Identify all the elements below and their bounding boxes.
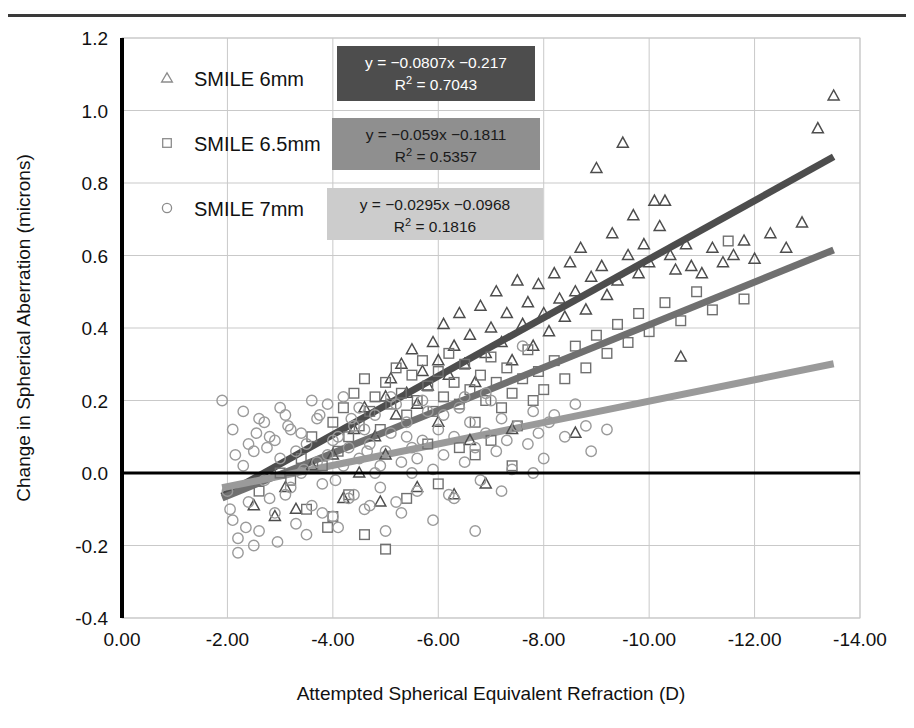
y-tick-label: 1.0 — [82, 101, 108, 122]
equation-boxes: y = −0.0807x −0.217R2 = 0.7043y = −0.059… — [327, 46, 543, 240]
y-tick-label: -0.4 — [75, 608, 108, 629]
top-divider-rule — [8, 14, 906, 17]
y-tick-label: -0.2 — [75, 536, 108, 557]
equation-box-3: y = −0.0295x −0.0968R2 = 0.1816 — [327, 188, 543, 240]
equation-box-2: y = −0.059x −0.1811R2 = 0.5357 — [332, 118, 540, 170]
y-tick-label: 0.2 — [82, 391, 108, 412]
equation-box-1: y = −0.0807x −0.217R2 = 0.7043 — [337, 46, 535, 101]
x-tick-label: -2.00 — [206, 629, 249, 650]
x-tick-label: -6.00 — [417, 629, 460, 650]
y-tick-label: 0.4 — [82, 318, 109, 339]
legend-label: SMILE 6.5mm — [194, 133, 321, 155]
x-tick-label: -14.00 — [833, 629, 887, 650]
legend-label: SMILE 7mm — [194, 198, 304, 220]
y-axis-title: Change in Spherical Aberration (microns) — [13, 154, 34, 501]
x-tick-label: 0.00 — [104, 629, 141, 650]
x-tick-label: -12.00 — [728, 629, 782, 650]
equation-text: y = −0.0295x −0.0968 — [360, 196, 510, 213]
legend-label: SMILE 6mm — [194, 68, 304, 90]
x-tick-label: -10.00 — [622, 629, 676, 650]
scatter-plot-svg: 0.00-2.00-4.00-6.00-8.00-10.00-12.00-14.… — [0, 0, 914, 728]
y-tick-label: 1.2 — [82, 28, 108, 49]
y-tick-labels: 1.21.00.80.60.40.20.0-0.2-0.4 — [75, 28, 108, 629]
x-tick-label: -8.00 — [522, 629, 565, 650]
x-tick-labels: 0.00-2.00-4.00-6.00-8.00-10.00-12.00-14.… — [104, 629, 887, 650]
x-axis-title: Attempted Spherical Equivalent Refractio… — [297, 683, 686, 704]
y-tick-label: 0.8 — [82, 173, 108, 194]
equation-text: y = −0.059x −0.1811 — [366, 126, 507, 143]
y-tick-label: 0.6 — [82, 246, 108, 267]
y-tick-label: 0.0 — [82, 463, 108, 484]
x-tick-label: -4.00 — [311, 629, 354, 650]
figure-container: 0.00-2.00-4.00-6.00-8.00-10.00-12.00-14.… — [0, 0, 914, 728]
equation-text: y = −0.0807x −0.217 — [365, 54, 507, 71]
